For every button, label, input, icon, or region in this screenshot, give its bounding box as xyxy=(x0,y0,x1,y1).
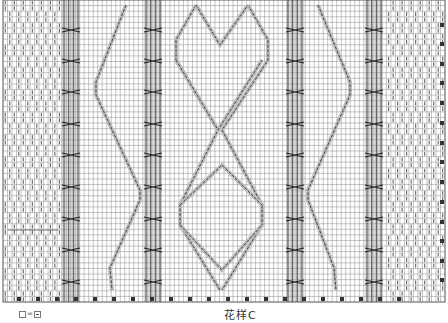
column-number-marker xyxy=(264,297,268,301)
column-number-marker xyxy=(112,297,116,301)
column-number-marker xyxy=(131,297,135,301)
row-number-marker xyxy=(440,141,444,145)
knitting-chart xyxy=(0,0,448,305)
column-number-marker xyxy=(302,297,306,301)
column-number-marker xyxy=(397,297,401,301)
column-number-marker xyxy=(340,297,344,301)
column-number-marker xyxy=(188,297,192,301)
row-number-marker xyxy=(440,259,444,263)
row-number-marker xyxy=(440,81,444,85)
column-number-marker xyxy=(359,297,363,301)
legend-equals: = xyxy=(27,311,33,318)
column-number-marker xyxy=(245,297,249,301)
row-number-marker xyxy=(440,278,444,282)
column-number-marker xyxy=(93,297,97,301)
column-number-marker xyxy=(283,297,287,301)
column-number-marker xyxy=(378,297,382,301)
row-number-marker xyxy=(440,239,444,243)
column-number-marker xyxy=(150,297,154,301)
column-number-marker xyxy=(321,297,325,301)
row-number-marker xyxy=(440,101,444,105)
chart-title: 花样C xyxy=(224,306,257,322)
column-number-marker xyxy=(169,297,173,301)
column-number-marker xyxy=(207,297,211,301)
column-number-marker xyxy=(74,297,78,301)
row-number-marker xyxy=(440,180,444,184)
row-number-marker xyxy=(440,160,444,164)
column-number-marker xyxy=(55,297,59,301)
column-number-marker xyxy=(36,297,40,301)
row-number-marker xyxy=(440,42,444,46)
row-number-marker xyxy=(440,62,444,66)
row-number-marker xyxy=(440,200,444,204)
purl-square-icon xyxy=(34,311,41,318)
row-number-marker xyxy=(440,220,444,224)
row-number-marker xyxy=(440,23,444,27)
row-number-marker xyxy=(440,121,444,125)
blank-square-icon xyxy=(19,311,26,318)
column-number-marker xyxy=(226,297,230,301)
legend: = xyxy=(19,309,41,319)
column-number-marker xyxy=(17,297,21,301)
